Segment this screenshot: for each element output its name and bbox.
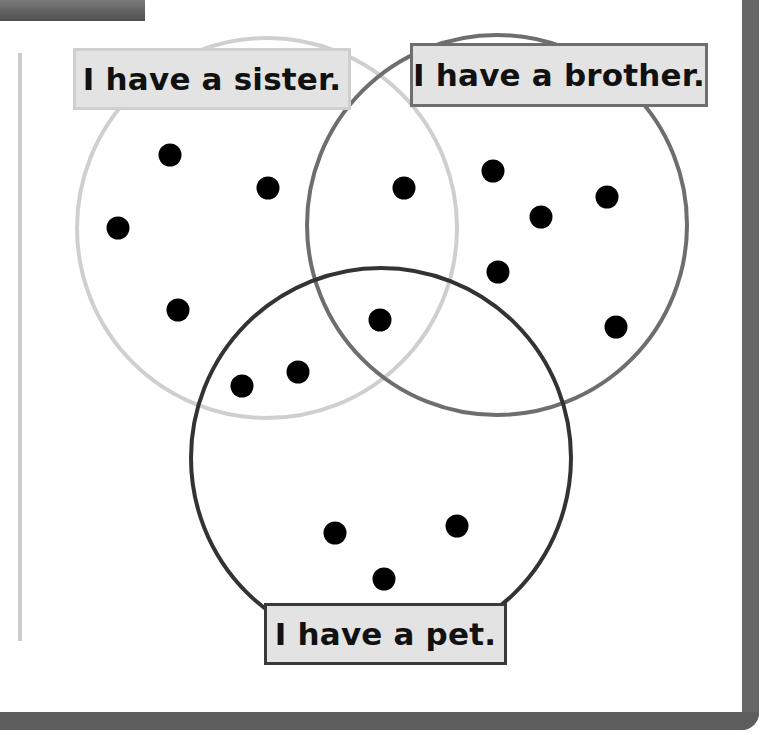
dot <box>393 177 416 200</box>
dot <box>530 206 553 229</box>
dot <box>596 186 619 209</box>
dot <box>324 522 347 545</box>
dot <box>287 361 310 384</box>
dot <box>482 160 505 183</box>
dot <box>373 568 396 591</box>
dot <box>605 316 628 339</box>
label-sister: I have a sister. <box>73 48 351 110</box>
dot <box>107 217 130 240</box>
dot <box>487 261 510 284</box>
dot <box>369 309 392 332</box>
label-brother: I have a brother. <box>410 43 708 107</box>
label-pet: I have a pet. <box>264 603 507 665</box>
dot <box>257 177 280 200</box>
dot <box>159 144 182 167</box>
dot <box>446 515 469 538</box>
dot <box>231 375 254 398</box>
dot <box>167 299 190 322</box>
